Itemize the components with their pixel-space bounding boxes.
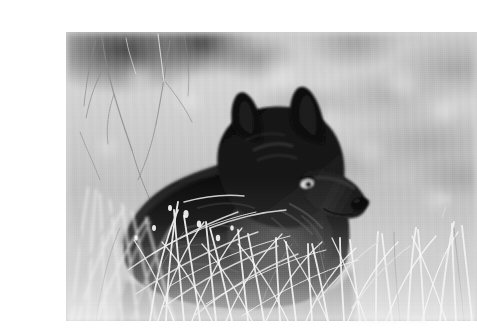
wolf-photograph: Black wolf resting in dry grass [66,32,477,321]
scan-smudge-bottom-right [404,316,426,322]
scan-smudge-right-upper [437,194,451,204]
scan-smudge-bottom-center [352,312,398,321]
photo-edge-softening [66,32,477,321]
scan-smudge-right-lower [440,254,449,260]
